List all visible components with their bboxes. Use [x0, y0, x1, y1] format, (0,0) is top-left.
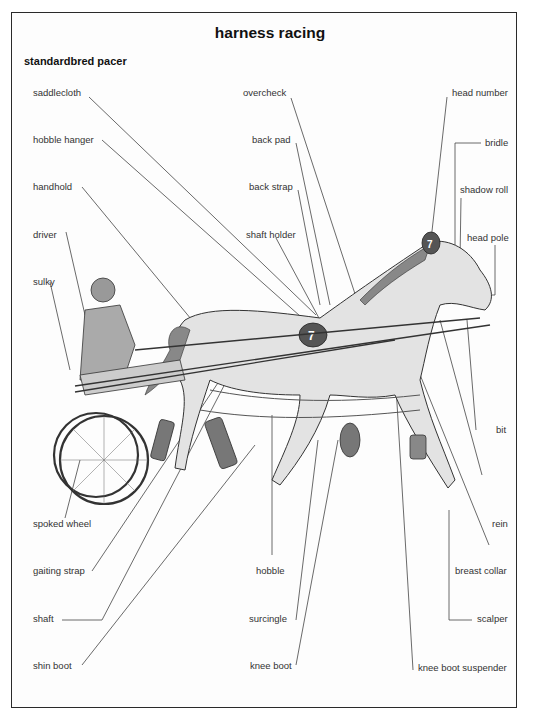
label-breast-collar: breast collar: [455, 565, 507, 576]
label-head-number: head number: [452, 87, 508, 98]
saddlecloth-number: 7: [308, 329, 315, 343]
label-head-pole: head pole: [467, 232, 509, 243]
label-gaiting-strap: gaiting strap: [33, 565, 85, 576]
label-shaft: shaft: [33, 613, 54, 624]
label-hobble-hanger: hobble hanger: [33, 134, 94, 145]
label-overcheck: overcheck: [243, 87, 286, 98]
label-surcingle: surcingle: [249, 613, 287, 624]
label-shaft-holder: shaft holder: [246, 229, 296, 240]
head-number: 7: [427, 239, 433, 250]
label-shadow-roll: shadow roll: [460, 184, 508, 195]
label-knee-boot: knee boot: [250, 660, 292, 671]
label-scalper: scalper: [477, 613, 508, 624]
label-bit: bit: [496, 424, 506, 435]
label-shin-boot: shin boot: [33, 660, 72, 671]
label-bridle: bridle: [485, 137, 508, 148]
label-knee-boot-suspender: knee boot suspender: [418, 662, 507, 673]
label-driver: driver: [33, 229, 57, 240]
label-sulky: sulky: [33, 276, 55, 287]
label-back-strap: back strap: [249, 181, 293, 192]
label-saddlecloth: saddlecloth: [33, 87, 81, 98]
label-rein: rein: [492, 518, 508, 529]
label-spoked-wheel: spoked wheel: [33, 518, 91, 529]
label-handhold: handhold: [33, 181, 72, 192]
label-hobble: hobble: [256, 565, 285, 576]
label-back-pad: back pad: [252, 134, 291, 145]
